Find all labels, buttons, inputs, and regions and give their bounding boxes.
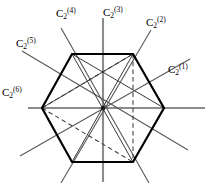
axis-label-C2-6-sup: (6) bbox=[13, 85, 22, 94]
axis-label-C2-6: C2(6) bbox=[2, 86, 22, 99]
axis-label-C2-4: C2(4) bbox=[56, 7, 76, 20]
center-point bbox=[101, 106, 106, 111]
axis-label-C2-5: C2(5) bbox=[16, 37, 36, 50]
figure-canvas bbox=[0, 0, 205, 192]
hexagon-c2-axes-figure: C2(1) C2(2) C2(3) C2(4) C2(5) C2(6) bbox=[0, 0, 205, 192]
axis-label-C2-2: C2(2) bbox=[146, 16, 166, 29]
axis-lines bbox=[20, 18, 205, 183]
axis-label-C2-2-sup: (2) bbox=[157, 15, 166, 24]
axis-label-C2-5-sup: (5) bbox=[27, 36, 36, 45]
axis-label-C2-1-sup: (1) bbox=[179, 62, 188, 71]
axis-label-C2-3-sup: (3) bbox=[114, 5, 123, 14]
axis-label-C2-1: C2(1) bbox=[168, 63, 188, 76]
axis-label-C2-3: C2(3) bbox=[103, 6, 123, 19]
axis-label-C2-4-sup: (4) bbox=[67, 6, 76, 15]
